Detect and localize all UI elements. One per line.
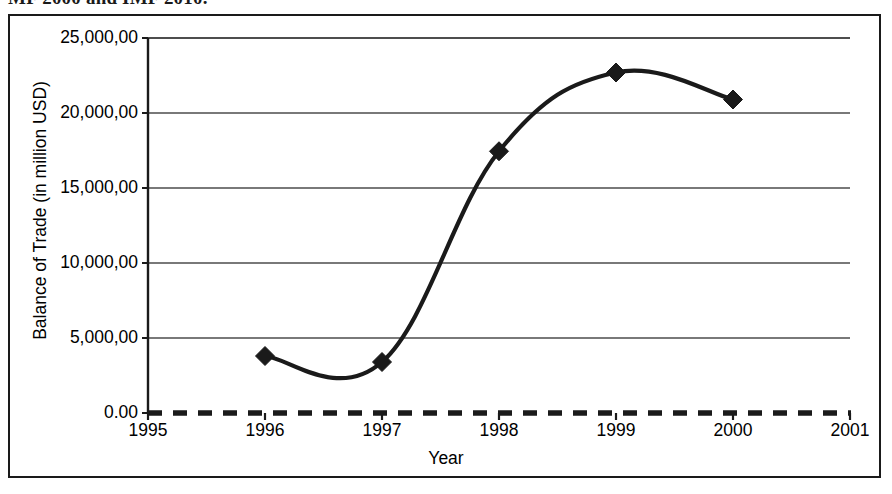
gridlines-group xyxy=(148,38,850,338)
x-axis-tick-label: 1998 xyxy=(459,420,539,441)
x-axis-title: Year xyxy=(0,448,892,469)
x-axis-tick-label: 1996 xyxy=(225,420,305,441)
diamond-marker-icon xyxy=(607,63,626,82)
x-axis-tick-label: 2000 xyxy=(693,420,773,441)
x-axis-tick-label: 1995 xyxy=(108,420,188,441)
data-point-markers xyxy=(256,63,743,372)
series-line-balance-of-trade xyxy=(265,71,733,379)
diamond-marker-icon xyxy=(724,90,743,109)
data-series-line xyxy=(265,71,733,379)
x-axis-tick-label: 1997 xyxy=(342,420,422,441)
x-axis-tick-label: 2001 xyxy=(810,420,890,441)
x-axis-tick-labels: 1995199619971998199920002001 xyxy=(0,420,892,446)
x-axis-tick-label: 1999 xyxy=(576,420,656,441)
diamond-marker-icon xyxy=(256,347,275,366)
